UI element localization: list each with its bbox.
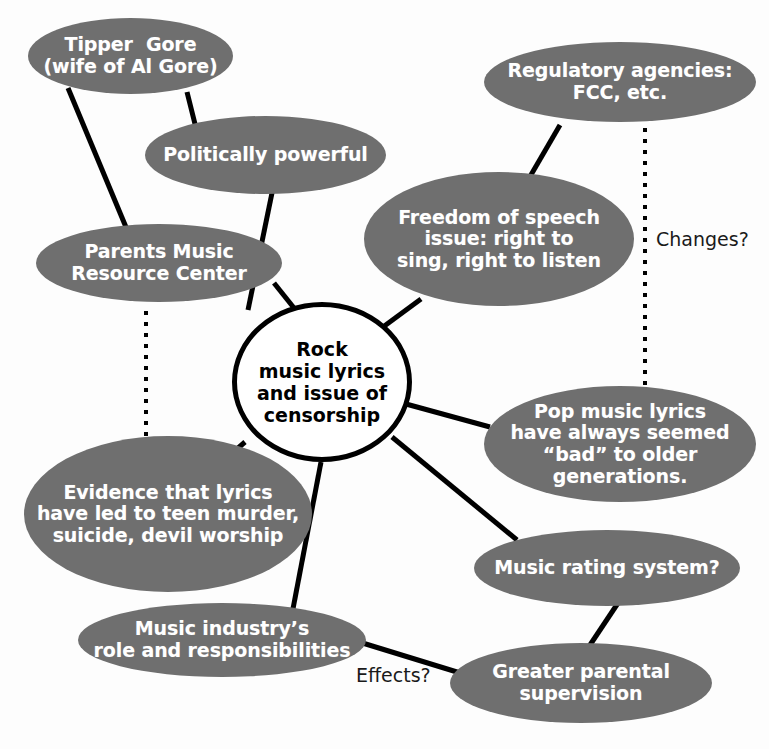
node-greater-parental-supervision[interactable]: Greater parentalsupervision <box>450 643 712 723</box>
node-evidence-lyrics[interactable]: Evidence that lyricshave led to teen mur… <box>24 436 312 592</box>
effects-label: Effects? <box>356 664 431 686</box>
center-node-label: Rockmusic lyricsand issue ofcensorship <box>257 338 387 426</box>
edge-tipper-to-pmrc <box>68 88 128 232</box>
node-label: Freedom of speechissue: right tosing, ri… <box>397 207 601 272</box>
node-pop-music-lyrics[interactable]: Pop music lyricshave always seemed“bad” … <box>484 386 756 502</box>
node-music-industry-role[interactable]: Music industry’srole and responsibilitie… <box>78 603 366 677</box>
changes-label: Changes? <box>656 228 749 250</box>
node-freedom-of-speech[interactable]: Freedom of speechissue: right tosing, ri… <box>364 172 634 306</box>
edge-freedom-to-center <box>383 299 421 327</box>
node-label: Music rating system? <box>494 557 719 579</box>
node-regulatory-agencies[interactable]: Regulatory agencies:FCC, etc. <box>484 42 756 122</box>
node-label: Tipper Gore(wife of Al Gore) <box>43 34 217 77</box>
node-center[interactable]: Rockmusic lyricsand issue ofcensorship <box>232 302 412 462</box>
node-label: Politically powerful <box>163 144 367 166</box>
node-label: Pop music lyricshave always seemed“bad” … <box>510 401 729 488</box>
node-label: Parents MusicResource Center <box>71 241 247 284</box>
edge-regulatory-to-freedom <box>528 125 560 180</box>
node-label: Evidence that lyricshave led to teen mur… <box>37 482 299 547</box>
node-label: Regulatory agencies:FCC, etc. <box>508 60 733 103</box>
node-politically-powerful[interactable]: Politically powerful <box>145 116 386 194</box>
node-pmrc[interactable]: Parents MusicResource Center <box>36 224 282 302</box>
concept-map-canvas: Tipper Gore(wife of Al Gore)Politically … <box>0 0 769 749</box>
node-tipper-gore[interactable]: Tipper Gore(wife of Al Gore) <box>28 18 233 94</box>
node-label: Greater parentalsupervision <box>492 661 670 704</box>
node-music-rating-system[interactable]: Music rating system? <box>474 530 740 606</box>
node-label: Music industry’srole and responsibilitie… <box>94 618 351 661</box>
edge-center-to-pop <box>406 404 490 427</box>
